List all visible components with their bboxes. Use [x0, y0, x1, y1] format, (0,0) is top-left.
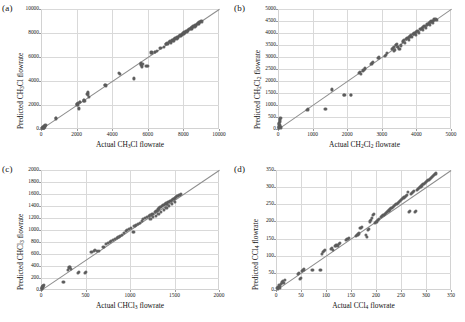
y-tick-label: 0	[273, 126, 276, 131]
y-tick-mark	[274, 256, 276, 257]
y-tick-label: 4000	[265, 30, 276, 35]
gridline-horizontal	[278, 21, 451, 22]
gridline-vertical	[175, 170, 176, 290]
y-tick-label: 1600	[28, 191, 39, 196]
gridline-horizontal	[276, 221, 451, 222]
y-tick-mark	[39, 33, 41, 34]
y-tick-mark	[276, 93, 278, 94]
y-tick-mark	[274, 187, 276, 188]
y-tick-label: 150	[266, 236, 274, 241]
gridline-vertical	[351, 170, 352, 290]
x-tick-label: 3000	[376, 132, 387, 137]
x-tick-label: 2000	[214, 293, 225, 298]
y-tick-mark	[39, 182, 41, 183]
gridline-vertical	[112, 9, 113, 129]
y-tick-label: 0	[271, 287, 274, 292]
y-tick-label: 400	[31, 263, 39, 268]
x-tick-label: 5000	[446, 132, 457, 137]
x-tick-label: 0	[40, 132, 43, 137]
parity-plot-figure: (a)0200040006000800010000020004000600080…	[0, 0, 465, 322]
panel-label: (b)	[234, 3, 245, 13]
gridline-horizontal	[276, 256, 451, 257]
gridline-horizontal	[278, 9, 451, 10]
y-tick-mark	[274, 170, 276, 171]
y-tick-label: 2500	[265, 66, 276, 71]
x-tick-label: 4000	[411, 132, 422, 137]
x-axis-title: Actual CH3Cl flowrate	[96, 140, 164, 149]
gridline-vertical	[326, 170, 327, 290]
y-tick-label: 350	[266, 167, 274, 172]
y-tick-label: 5000	[265, 6, 276, 11]
y-tick-label: 1400	[28, 203, 39, 208]
plot-area: 0200400600800100012001400160018002000050…	[41, 170, 219, 290]
gridline-vertical	[77, 9, 78, 129]
x-tick-label: 150	[347, 293, 355, 298]
y-axis-title: Predicted CCl4 flowrate	[251, 219, 260, 290]
y-tick-label: 200	[31, 275, 39, 280]
panel-c-chcl3: (c)0200400600800100012001400160018002000…	[0, 161, 232, 322]
y-tick-mark	[274, 204, 276, 205]
panel-a-ch3cl: (a)0200040006000800010000020004000600080…	[0, 0, 232, 161]
y-tick-label: 1000	[28, 227, 39, 232]
y-tick-mark	[276, 105, 278, 106]
y-tick-mark	[39, 278, 41, 279]
y-tick-mark	[276, 33, 278, 34]
y-axis-title: Predicted CH2Cl2 flowrate	[253, 50, 262, 129]
y-tick-label: 10000	[26, 6, 39, 11]
gridline-vertical	[183, 9, 184, 129]
y-tick-label: 8000	[28, 30, 39, 35]
panel-label: (c)	[2, 164, 13, 174]
x-tick-label: 8000	[178, 132, 189, 137]
y-tick-mark	[39, 105, 41, 106]
x-tick-label: 250	[397, 293, 405, 298]
gridline-vertical	[313, 9, 314, 129]
gridline-horizontal	[278, 81, 451, 82]
y-tick-label: 2000	[28, 167, 39, 172]
gridline-vertical	[416, 9, 417, 129]
gridline-horizontal	[278, 93, 451, 94]
x-tick-label: 1000	[307, 132, 318, 137]
plot-area: 0501001502002503003500501001502002503003…	[276, 170, 451, 290]
y-tick-mark	[39, 218, 41, 219]
y-tick-label: 4500	[265, 18, 276, 23]
y-tick-mark	[39, 81, 41, 82]
gridline-horizontal	[41, 33, 219, 34]
gridline-horizontal	[276, 204, 451, 205]
y-tick-label: 500	[268, 114, 276, 119]
panel-label: (d)	[234, 164, 245, 174]
y-tick-mark	[274, 273, 276, 274]
y-tick-label: 1800	[28, 179, 39, 184]
gridline-vertical	[401, 170, 402, 290]
x-tick-label: 100	[322, 293, 330, 298]
x-tick-label: 6000	[142, 132, 153, 137]
x-axis-title: Actual CH2Cl2 flowrate	[329, 140, 400, 149]
y-tick-label: 2000	[28, 102, 39, 107]
y-tick-mark	[274, 239, 276, 240]
gridline-vertical	[382, 9, 383, 129]
x-tick-label: 0	[277, 132, 280, 137]
y-tick-label: 0	[36, 126, 39, 131]
y-tick-mark	[276, 57, 278, 58]
x-axis-title: Actual CHCl3 flowrate	[96, 301, 164, 310]
plot-area: 0500100015002000250030003500400045005000…	[278, 9, 451, 129]
y-tick-mark	[276, 81, 278, 82]
y-tick-label: 50	[269, 270, 274, 275]
y-tick-label: 3500	[265, 42, 276, 47]
y-tick-label: 1000	[265, 102, 276, 107]
gridline-vertical	[347, 9, 348, 129]
y-tick-label: 600	[31, 251, 39, 256]
gridline-horizontal	[278, 117, 451, 118]
x-tick-label: 4000	[107, 132, 118, 137]
y-tick-mark	[274, 221, 276, 222]
gridline-vertical	[148, 9, 149, 129]
y-tick-mark	[39, 194, 41, 195]
y-tick-label: 3000	[265, 54, 276, 59]
y-tick-label: 0	[36, 287, 39, 292]
x-tick-label: 2000	[71, 132, 82, 137]
y-tick-mark	[39, 57, 41, 58]
y-tick-label: 1200	[28, 215, 39, 220]
x-tick-label: 300	[422, 293, 430, 298]
y-tick-label: 200	[266, 219, 274, 224]
y-axis-title: Predicted CH3Cl flowrate	[16, 53, 25, 129]
y-tick-label: 1500	[265, 90, 276, 95]
